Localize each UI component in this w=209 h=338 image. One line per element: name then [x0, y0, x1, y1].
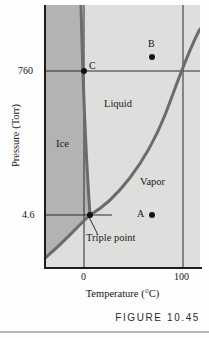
y-axis-line — [44, 5, 46, 269]
region-label-liquid: Liquid — [104, 98, 132, 109]
point-b-label: B — [148, 38, 155, 49]
y-tick-label-4p6: 4.6 — [22, 210, 35, 220]
point-c-label: C — [89, 60, 96, 71]
x-tick-label-0: 0 — [81, 272, 86, 282]
point-c-dot — [81, 68, 87, 74]
phase-diagram-figure: Ice Liquid Vapor A B C Triple point 760 … — [0, 0, 209, 338]
figure-caption: FIGURE 10.45 — [0, 312, 200, 323]
x-axis-line — [44, 267, 202, 269]
region-label-vapor: Vapor — [140, 176, 165, 187]
y-axis-title: Pressure (Torr) — [10, 88, 21, 184]
caption-divider — [0, 331, 209, 333]
region-label-ice: Ice — [56, 138, 69, 149]
triple-point-dot — [87, 212, 93, 218]
point-b-dot — [149, 54, 155, 60]
y-tick-label-760: 760 — [18, 66, 33, 76]
point-a-label: A — [137, 208, 144, 219]
x-tick-label-100: 100 — [174, 272, 189, 282]
phase-boundary-curves — [45, 5, 200, 268]
point-a-dot — [149, 212, 155, 218]
plot-area: Ice Liquid Vapor A B C Triple point — [45, 5, 200, 268]
triple-point-label: Triple point — [86, 232, 136, 243]
x-axis-title: Temperature (°C) — [45, 288, 200, 299]
